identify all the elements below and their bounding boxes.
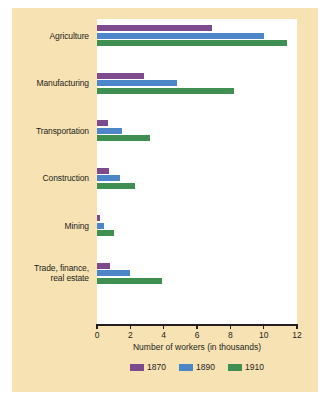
bar-group-3 <box>12 120 318 141</box>
bar-1910-manufacturing <box>97 88 234 94</box>
legend-label-1870: 1870 <box>147 363 166 372</box>
figure-panel: AgricultureManufacturingTransportationCo… <box>12 8 318 392</box>
legend-label-1890: 1890 <box>196 363 215 372</box>
legend-swatch-1890 <box>179 364 193 371</box>
x-tick-label-2: 2 <box>128 330 133 340</box>
bar-group-2 <box>12 73 318 94</box>
bar-chart: AgricultureManufacturingTransportationCo… <box>12 8 318 392</box>
x-tick-6 <box>196 324 197 329</box>
bar-group-1 <box>12 25 318 46</box>
bar-1870-trade <box>97 263 110 269</box>
bar-group-5 <box>12 215 318 236</box>
x-tick-label-12: 12 <box>292 330 301 340</box>
legend-swatch-1910 <box>228 364 242 371</box>
bar-group-6 <box>12 263 318 284</box>
x-tick-label-0: 0 <box>95 330 100 340</box>
legend-swatch-1870 <box>130 364 144 371</box>
bar-1910-transportation <box>97 135 150 141</box>
bar-1890-construction <box>97 175 120 181</box>
bar-1890-agriculture <box>97 33 264 39</box>
bar-1890-transportation <box>97 128 122 134</box>
bar-1910-agriculture <box>97 40 287 46</box>
x-tick-label-4: 4 <box>161 330 166 340</box>
x-tick-10 <box>263 324 264 329</box>
bar-1910-construction <box>97 183 135 189</box>
x-tick-0 <box>96 324 97 329</box>
x-tick-2 <box>130 324 131 329</box>
x-tick-4 <box>163 324 164 329</box>
bar-group-4 <box>12 168 318 189</box>
bar-1910-mining <box>97 230 114 236</box>
x-tick-label-6: 6 <box>195 330 200 340</box>
x-axis-title: Number of workers (in thousands) <box>97 342 297 352</box>
bar-1910-trade <box>97 278 162 284</box>
legend-item-1890: 1890 <box>179 363 215 372</box>
legend-label-1910: 1910 <box>245 363 264 372</box>
legend-item-1870: 1870 <box>130 363 166 372</box>
x-tick-8 <box>230 324 231 329</box>
x-tick-label-8: 8 <box>228 330 233 340</box>
chart-legend: 187018901910 <box>97 363 297 372</box>
bar-1870-agriculture <box>97 25 212 31</box>
bar-1870-mining <box>97 215 100 221</box>
x-tick-12 <box>296 324 297 329</box>
x-tick-label-10: 10 <box>259 330 268 340</box>
bar-1870-transportation <box>97 120 108 126</box>
bar-1890-trade <box>97 270 130 276</box>
bar-1890-manufacturing <box>97 80 177 86</box>
bar-1870-construction <box>97 168 109 174</box>
bar-1870-manufacturing <box>97 73 144 79</box>
bar-1890-mining <box>97 223 104 229</box>
legend-item-1910: 1910 <box>228 363 264 372</box>
